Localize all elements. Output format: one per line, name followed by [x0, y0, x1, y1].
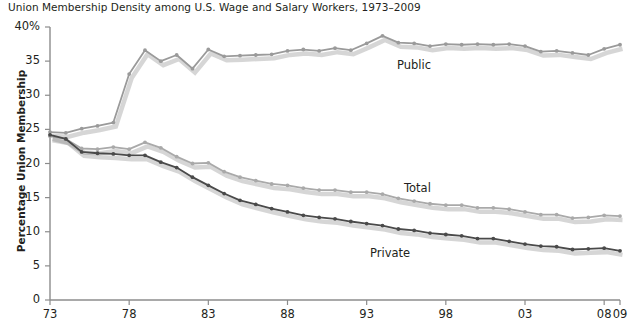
x-tick-label: 83	[193, 307, 223, 321]
y-tick-label: 5	[6, 258, 40, 272]
y-tick-label: 25	[6, 121, 40, 135]
chart-figure: Union Membership Density among U.S. Wage…	[0, 0, 629, 321]
series-label-total: Total	[404, 181, 431, 195]
x-tick-label: 73	[35, 307, 65, 321]
series-lines	[48, 34, 622, 255]
plot-area	[0, 0, 629, 321]
x-tick-label: 09	[605, 307, 629, 321]
y-tick-label: 35	[6, 53, 40, 67]
axis-lines	[50, 27, 620, 300]
x-axis-ticks	[50, 300, 620, 305]
y-tick-label: 10	[6, 224, 40, 238]
x-tick-label: 03	[510, 307, 540, 321]
y-tick-label: 0	[6, 292, 40, 306]
y-tick-label: 15	[6, 190, 40, 204]
x-tick-label: 93	[352, 307, 382, 321]
x-tick-label: 78	[114, 307, 144, 321]
y-axis-ticks	[45, 27, 50, 300]
y-tick-label: 40%	[6, 19, 40, 33]
series-label-public: Public	[397, 58, 431, 72]
x-tick-label: 98	[431, 307, 461, 321]
series-label-private: Private	[370, 246, 410, 260]
y-tick-label: 30	[6, 87, 40, 101]
x-tick-label: 88	[273, 307, 303, 321]
y-tick-label: 20	[6, 156, 40, 170]
